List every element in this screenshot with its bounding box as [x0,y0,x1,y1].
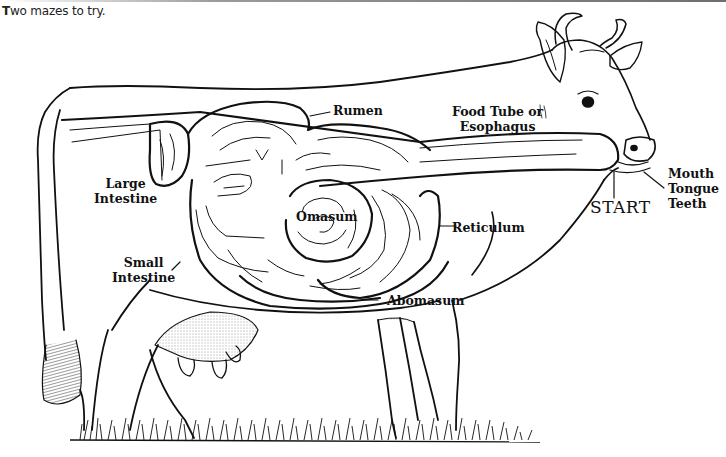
label-small-intestine-line2: Intestine [112,270,175,285]
label-omasum: Omasum [296,209,358,224]
label-mouth: Mouth Tongue Teeth [668,166,719,211]
label-abomasum: Abomasum [387,293,464,308]
label-mouth-line1: Mouth [668,166,719,181]
label-small-intestine-line1: Small [112,255,175,270]
cow-head [536,13,655,172]
cow-maze-illustration [0,0,726,457]
label-large-intestine-line1: Large [94,176,157,191]
grass [70,418,540,442]
label-food-tube-line2: Esophagus [452,119,543,134]
label-small-intestine: Small Intestine [112,255,175,285]
label-food-tube: Food Tube or Esophagus [452,104,543,134]
label-reticulum: Reticulum [452,220,525,235]
label-rumen: Rumen [333,103,383,118]
label-large-intestine: Large Intestine [94,176,157,206]
label-food-tube-line1: Food Tube or [452,104,543,119]
label-start: START [590,200,651,215]
reticulum-maze [318,190,440,298]
rumen-maze [188,102,448,309]
label-mouth-line2: Tongue [668,181,719,196]
label-mouth-line3: Teeth [668,196,719,211]
label-large-intestine-line2: Intestine [94,191,157,206]
